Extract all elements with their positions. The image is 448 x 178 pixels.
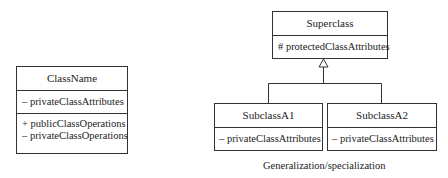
generalization-arrowhead-icon <box>319 59 328 67</box>
generalization-connector <box>0 0 448 178</box>
diagram-caption: Generalization/specialization <box>263 160 385 171</box>
